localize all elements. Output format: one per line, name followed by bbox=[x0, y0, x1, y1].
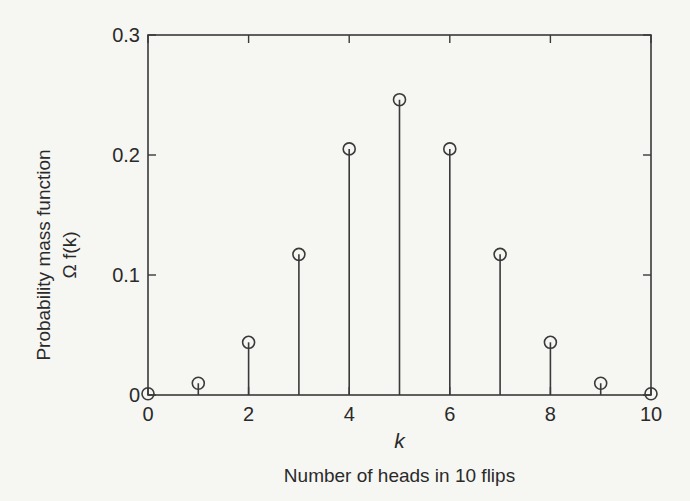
x-tick-label: 2 bbox=[243, 403, 254, 425]
y-axis-title: Probability mass function bbox=[33, 149, 54, 360]
x-axis-symbol: k bbox=[394, 429, 406, 452]
chart-container: 024681000.10.20.3kNumber of heads in 10 … bbox=[0, 0, 690, 501]
y-axis-symbol: Ω f(k) bbox=[59, 232, 80, 279]
x-tick-label: 6 bbox=[444, 403, 455, 425]
y-tick-label: 0.2 bbox=[112, 144, 140, 166]
stem-plot: 024681000.10.20.3kNumber of heads in 10 … bbox=[0, 0, 690, 501]
x-tick-label: 0 bbox=[142, 403, 153, 425]
x-tick-label: 8 bbox=[545, 403, 556, 425]
x-axis-title: Number of heads in 10 flips bbox=[284, 465, 515, 486]
y-tick-label: 0 bbox=[129, 384, 140, 406]
x-tick-label: 10 bbox=[640, 403, 662, 425]
y-tick-label: 0.1 bbox=[112, 264, 140, 286]
y-tick-label: 0.3 bbox=[112, 24, 140, 46]
x-tick-label: 4 bbox=[344, 403, 355, 425]
